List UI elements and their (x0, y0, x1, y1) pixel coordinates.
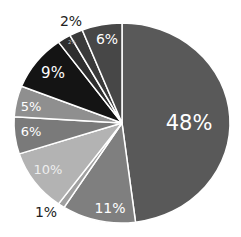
slice-label-outside: 2% (60, 13, 82, 29)
slice-label: 6% (96, 31, 118, 47)
slice-label: 11% (94, 200, 125, 216)
slice-label: 48% (166, 111, 213, 135)
slice-label: 6% (21, 124, 42, 139)
slice-label: 10% (34, 162, 63, 177)
pie-chart: 48%11%1%10%6%5%9%2%2%6% (0, 0, 241, 237)
slice-label: 2% (68, 39, 76, 45)
slice-label-outside: 1% (35, 204, 57, 220)
slice-label: 9% (41, 64, 65, 82)
slice-label: 5% (21, 99, 42, 114)
